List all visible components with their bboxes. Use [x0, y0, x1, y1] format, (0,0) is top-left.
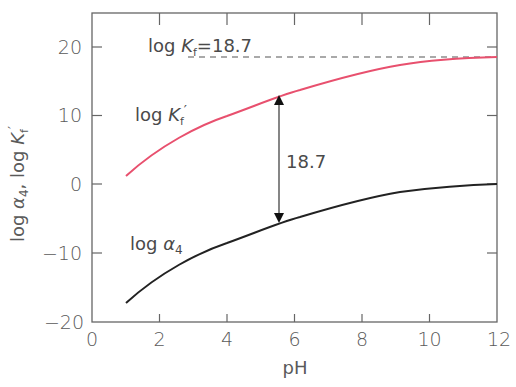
difference-double-arrow — [274, 95, 284, 223]
y-ticks — [92, 47, 497, 253]
y-axis-label: log α4, log Kf′ — [5, 126, 31, 242]
x-tick-label: 4 — [221, 328, 233, 350]
reference-label: log Kf=18.7 — [148, 35, 252, 59]
y-tick-label: −20 — [44, 311, 84, 333]
x-axis-label: pH — [283, 357, 308, 378]
x-tick-label: 2 — [153, 328, 165, 350]
log-kf-prime-label: log Kf′ — [135, 102, 187, 128]
y-tick-label: 10 — [58, 104, 82, 126]
y-tick-label: 0 — [70, 173, 82, 195]
log-alpha4-label: log α4 — [130, 233, 183, 257]
x-tick-label: 0 — [86, 328, 98, 350]
y-tick-label: −10 — [42, 242, 82, 264]
difference-value-label: 18.7 — [286, 151, 326, 172]
x-tick-label: 6 — [288, 328, 300, 350]
x-tick-label: 10 — [417, 328, 441, 350]
x-tick-label: 8 — [356, 328, 368, 350]
y-tick-label: 20 — [58, 36, 82, 58]
x-tick-label: 12 — [487, 328, 511, 350]
chart-canvas: 20 10 0 −10 −20 0 2 4 6 8 10 12 pH log α… — [0, 0, 516, 387]
